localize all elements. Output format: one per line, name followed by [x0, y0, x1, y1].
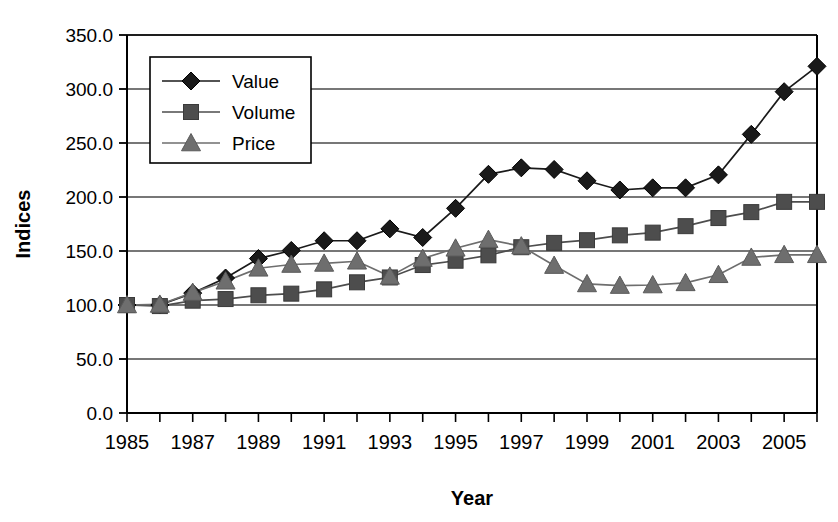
data-point-volume [645, 225, 660, 240]
chart-figure: 0.050.0100.0150.0200.0250.0300.0350.0198… [0, 0, 838, 522]
y-tick-label: 350.0 [65, 25, 113, 46]
data-point-value [742, 125, 760, 143]
data-point-volume [251, 288, 266, 303]
data-point-value [512, 159, 530, 177]
data-point-volume [547, 235, 562, 250]
legend-marker-volume [184, 105, 199, 120]
x-tick-label: 1987 [170, 431, 215, 453]
y-tick-label: 50.0 [76, 349, 113, 370]
data-point-value [315, 232, 333, 250]
data-point-value [709, 166, 727, 184]
data-point-volume [711, 211, 726, 226]
data-point-value [808, 57, 826, 75]
data-point-value [348, 232, 366, 250]
indices-line-chart: 0.050.0100.0150.0200.0250.0300.0350.0198… [0, 0, 838, 522]
data-point-price [348, 252, 367, 269]
data-point-value [677, 179, 695, 197]
data-point-price [709, 265, 728, 282]
data-point-price [446, 239, 465, 256]
data-point-value [381, 220, 399, 238]
data-point-value [775, 83, 793, 101]
data-point-volume [284, 286, 299, 301]
x-tick-label: 1993 [368, 431, 413, 453]
x-tick-label: 1991 [302, 431, 347, 453]
x-axis-title: Year [451, 487, 493, 509]
legend-label-price: Price [232, 133, 275, 154]
data-point-price [775, 245, 794, 262]
data-point-volume [481, 248, 496, 263]
legend-label-volume: Volume [232, 102, 295, 123]
data-point-price [545, 256, 564, 273]
data-point-value [578, 172, 596, 190]
data-point-volume [350, 275, 365, 290]
x-tick-label: 1985 [105, 431, 150, 453]
data-point-volume [810, 194, 825, 209]
x-tick-label: 1997 [499, 431, 544, 453]
data-point-price [479, 230, 498, 247]
y-tick-label: 100.0 [65, 295, 113, 316]
x-tick-label: 2001 [630, 431, 675, 453]
y-tick-label: 300.0 [65, 79, 113, 100]
data-point-volume [612, 228, 627, 243]
data-point-volume [580, 233, 595, 248]
legend-label-value: Value [232, 71, 279, 92]
y-tick-label: 150.0 [65, 241, 113, 262]
y-tick-label: 0.0 [87, 403, 113, 424]
x-tick-label: 1999 [565, 431, 610, 453]
y-tick-label: 250.0 [65, 133, 113, 154]
data-point-value [644, 179, 662, 197]
data-point-volume [777, 194, 792, 209]
y-tick-label: 200.0 [65, 187, 113, 208]
data-point-price [808, 245, 827, 262]
data-point-price [578, 274, 597, 291]
data-point-volume [744, 205, 759, 220]
data-point-volume [317, 282, 332, 297]
x-tick-label: 2005 [762, 431, 807, 453]
data-point-volume [678, 219, 693, 234]
x-tick-label: 1989 [236, 431, 281, 453]
data-point-volume [218, 292, 233, 307]
x-tick-label: 2003 [696, 431, 741, 453]
y-axis-title: Indices [12, 190, 34, 259]
x-tick-label: 1995 [433, 431, 478, 453]
data-point-value [545, 160, 563, 178]
